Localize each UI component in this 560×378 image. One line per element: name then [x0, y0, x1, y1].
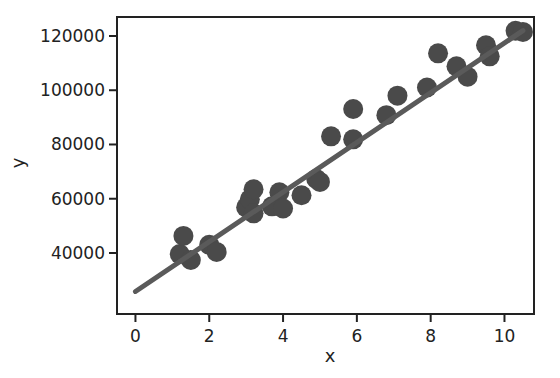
x-axis-label: x — [325, 345, 336, 366]
scatter-point — [387, 86, 407, 106]
y-axis-ticks: 400006000080000100000120000 — [40, 26, 117, 263]
scatter-point — [428, 43, 448, 63]
y-tick-label: 60000 — [51, 189, 105, 209]
x-tick-label: 0 — [130, 326, 141, 346]
scatter-point — [321, 126, 341, 146]
x-tick-label: 10 — [494, 326, 516, 346]
x-tick-label: 4 — [278, 326, 289, 346]
regression-line — [135, 31, 522, 292]
y-tick-label: 100000 — [40, 80, 105, 100]
x-axis-ticks: 0246810 — [130, 314, 515, 346]
x-tick-label: 2 — [204, 326, 215, 346]
scatter-point — [273, 198, 293, 218]
plot-marks — [135, 21, 532, 292]
scatter-chart: 0246810 400006000080000100000120000 x y — [0, 0, 560, 378]
y-tick-label: 40000 — [51, 243, 105, 263]
scatter-point — [343, 99, 363, 119]
scatter-point — [173, 226, 193, 246]
y-tick-label: 80000 — [51, 134, 105, 154]
scatter-point — [207, 242, 227, 262]
scatter-point — [244, 179, 264, 199]
x-tick-label: 8 — [425, 326, 436, 346]
y-tick-label: 120000 — [40, 26, 105, 46]
scatter-point — [292, 185, 312, 205]
x-tick-label: 6 — [351, 326, 362, 346]
y-axis-label: y — [7, 157, 28, 168]
